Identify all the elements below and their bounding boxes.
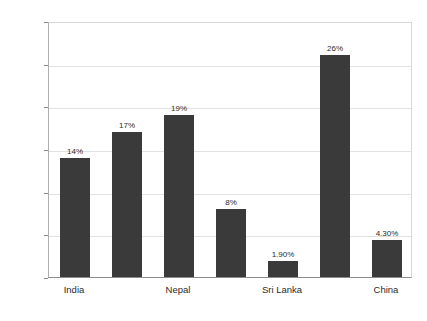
y-axis-tick-mark xyxy=(44,278,48,279)
x-axis-category-label: Sri Lanka xyxy=(262,284,302,295)
bar-slot: 1.90% xyxy=(268,23,297,277)
bar[interactable] xyxy=(112,132,141,277)
plot-area: 14%17%19%8%1.90%26%4.30% xyxy=(48,22,412,278)
bar-value-label: 17% xyxy=(98,121,155,130)
bar-slot: 4.30% xyxy=(372,23,401,277)
bar-value-label: 8% xyxy=(202,198,259,207)
bar-value-label: 4.30% xyxy=(358,229,415,238)
bar[interactable] xyxy=(268,261,297,277)
bar[interactable] xyxy=(320,55,349,277)
bar[interactable] xyxy=(372,240,401,277)
bar-slot: 8% xyxy=(216,23,245,277)
bar-slot: 19% xyxy=(164,23,193,277)
bar-chart: 0%5%10%15%20%25%30% 14%17%19%8%1.90%26%4… xyxy=(0,0,427,321)
bar[interactable] xyxy=(164,115,193,277)
bar-value-label: 14% xyxy=(46,147,103,156)
bar-value-label: 26% xyxy=(306,44,363,53)
x-axis-category-label: China xyxy=(374,284,399,295)
bar[interactable] xyxy=(60,158,89,277)
bar-value-label: 19% xyxy=(150,104,207,113)
bar-value-label: 1.90% xyxy=(254,250,311,259)
x-axis-category-label: Nepal xyxy=(166,284,191,295)
x-axis-category-label: India xyxy=(64,284,85,295)
bar-slot: 14% xyxy=(60,23,89,277)
bar-slot: 26% xyxy=(320,23,349,277)
bar[interactable] xyxy=(216,209,245,277)
bar-slot: 17% xyxy=(112,23,141,277)
